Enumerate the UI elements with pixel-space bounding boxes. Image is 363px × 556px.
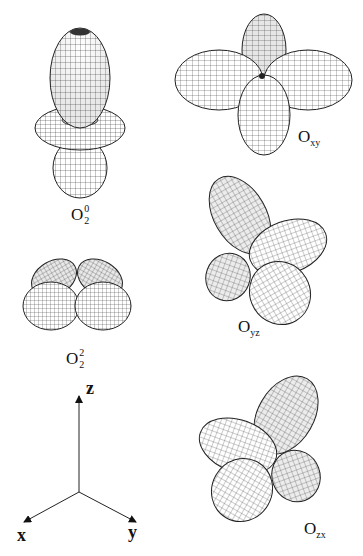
x-axis-arrow [24, 492, 79, 522]
label-o22: O22 [66, 350, 86, 367]
label-o20: O02 [71, 206, 91, 223]
label-oxy: Oxy [298, 128, 320, 148]
y-axis-arrow [79, 492, 136, 522]
orbital-oxy-figure [174, 10, 354, 150]
orbital-o22-figure [22, 256, 132, 336]
axis-label-z: z [86, 378, 94, 399]
axis-label-y: y [128, 522, 137, 543]
orbital-o20-figure [20, 20, 140, 200]
label-oyz: Oyz [238, 318, 260, 338]
axis-label-x: x [17, 525, 26, 546]
orbital-oyz-figure [200, 175, 330, 325]
label-ozx: Ozx [304, 520, 326, 540]
orbital-ozx-figure [198, 370, 328, 520]
